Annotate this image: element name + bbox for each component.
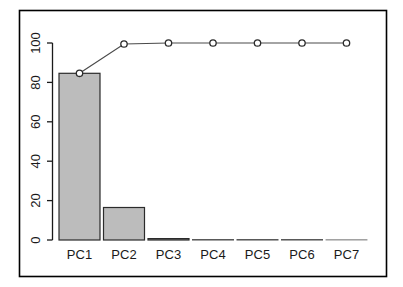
y-tick-label-20: 20 — [28, 193, 43, 207]
x-tick-label-pc7: PC7 — [334, 247, 359, 262]
cumulative-marker-pc3[interactable] — [165, 40, 171, 46]
bar-pc3[interactable] — [148, 239, 189, 240]
bar-pc1[interactable] — [59, 73, 100, 240]
y-tick-label-0: 0 — [28, 236, 43, 243]
bar-pc2[interactable] — [104, 208, 145, 241]
cumulative-marker-pc6[interactable] — [299, 40, 305, 46]
cumulative-marker-pc7[interactable] — [343, 40, 349, 46]
x-tick-label-pc2: PC2 — [111, 247, 136, 262]
scree-plot-canvas: 0 20 40 60 80 100 — [0, 0, 403, 287]
y-tick-label-40: 40 — [28, 154, 43, 168]
y-tick-label-60: 60 — [28, 115, 43, 129]
cumulative-marker-pc4[interactable] — [210, 40, 216, 46]
y-tick-label-80: 80 — [28, 75, 43, 89]
cumulative-marker-pc1[interactable] — [76, 70, 82, 76]
x-tick-label-pc4: PC4 — [200, 247, 225, 262]
x-tick-label-pc5: PC5 — [245, 247, 270, 262]
cumulative-marker-pc5[interactable] — [254, 40, 260, 46]
x-tick-label-pc3: PC3 — [156, 247, 181, 262]
cumulative-marker-pc2[interactable] — [121, 41, 127, 47]
x-tick-label-pc1: PC1 — [67, 247, 92, 262]
scree-plot-figure: 0 20 40 60 80 100 — [0, 0, 403, 287]
y-tick-label-100: 100 — [28, 32, 43, 54]
x-tick-label-pc6: PC6 — [289, 247, 314, 262]
